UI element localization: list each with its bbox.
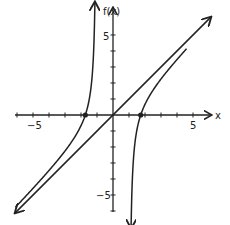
x-tick-label-5: 5 <box>190 120 196 131</box>
function-right-branch <box>131 49 187 225</box>
x-intercept-marker-left <box>83 112 88 117</box>
x-axis-label: x <box>215 110 221 121</box>
x-tick-label-neg5: −5 <box>27 120 42 131</box>
function-graph: x f(x) −5 5 5 −5 <box>0 0 230 225</box>
y-axis-label: f(x) <box>103 6 120 17</box>
y-tick-label-5: 5 <box>103 31 109 42</box>
function-left-branch <box>15 2 95 207</box>
x-intercept-marker-right <box>138 112 143 117</box>
y-tick-label-neg5: −5 <box>96 190 111 201</box>
